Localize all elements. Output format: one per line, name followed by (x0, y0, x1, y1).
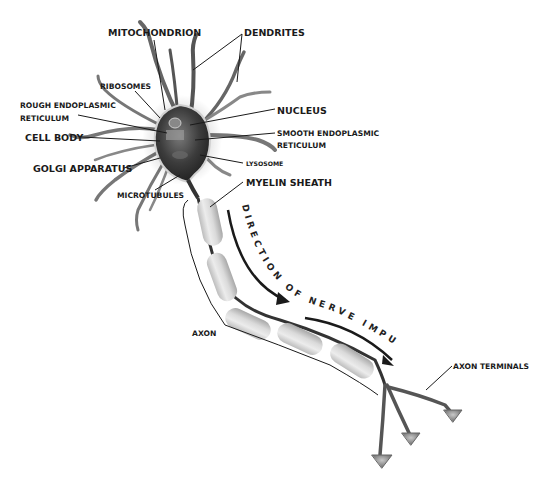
axon-terminals (372, 385, 462, 468)
label-smooth-er-line2: RETICULUM (277, 141, 326, 150)
label-cell-body: CELL BODY (25, 132, 83, 143)
label-myelin-sheath: MYELIN SHEATH (246, 177, 332, 188)
label-dendrites: DENDRITES (244, 27, 305, 38)
label-golgi-apparatus: GOLGI APPARATUS (33, 163, 132, 174)
myelin-segment (195, 196, 225, 247)
cell-body (142, 95, 222, 198)
label-smooth-er-line1: SMOOTH ENDOPLASMIC (277, 129, 380, 138)
label-axon-terminals: AXON TERMINALS (453, 362, 529, 371)
label-microtubules: MICROTUBULES (117, 191, 184, 200)
myelin-segment (222, 305, 274, 343)
label-nucleus: NUCLEUS (277, 105, 327, 116)
label-lysosome: LYSOSOME (246, 160, 283, 167)
myelin-segment (326, 340, 377, 382)
neuron-diagram: DIRECTION OF NERVE IMPULSE MITOCHONDRION… (0, 0, 560, 492)
myelin-segment (204, 250, 240, 304)
label-ribosomes: RIBOSOMES (100, 82, 151, 91)
nucleus-shape (169, 118, 181, 128)
label-rough-er-line1: ROUGH ENDOPLASMIC (20, 101, 116, 110)
label-rough-er-line2: RETICULUM (20, 114, 69, 123)
label-axon: AXON (192, 329, 216, 338)
label-mitochondrion: MITOCHONDRION (108, 27, 201, 38)
